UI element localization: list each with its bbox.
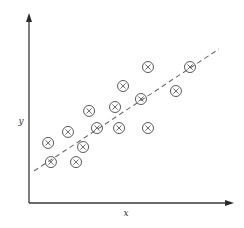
data-point xyxy=(71,157,82,168)
y-axis-label: y xyxy=(17,116,24,126)
scatter-chart: y x xyxy=(0,0,244,228)
x-axis-label: x xyxy=(123,208,128,218)
data-point xyxy=(142,123,153,134)
trend-line xyxy=(34,49,219,171)
data-point xyxy=(110,102,121,113)
data-point xyxy=(43,137,54,148)
data-point xyxy=(45,157,56,168)
data-point xyxy=(78,142,89,153)
data-point xyxy=(62,126,73,137)
data-point xyxy=(118,81,129,92)
data-point xyxy=(185,62,196,73)
data-point xyxy=(84,105,95,116)
data-point xyxy=(135,94,146,105)
data-point xyxy=(142,62,153,73)
x-axis-arrow-icon xyxy=(225,200,234,206)
data-point xyxy=(170,86,181,97)
data-point xyxy=(114,123,125,134)
y-axis-arrow-icon xyxy=(26,13,32,22)
data-point xyxy=(91,123,102,134)
